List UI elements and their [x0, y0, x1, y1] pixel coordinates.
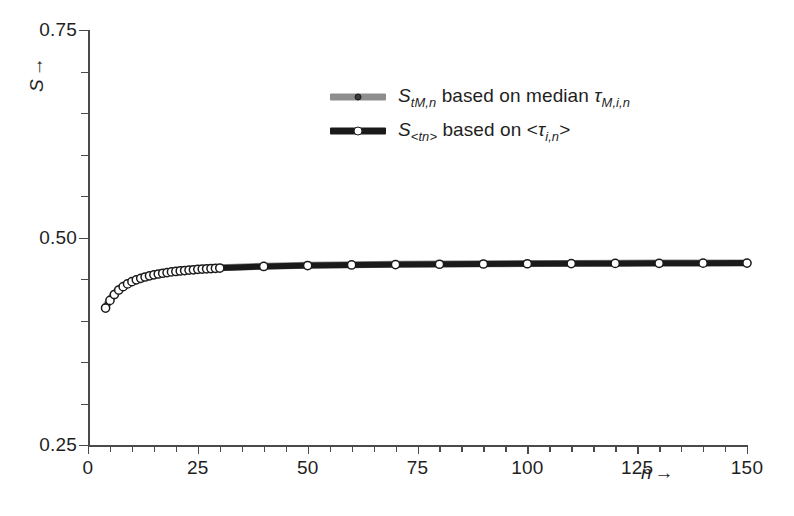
series-marker	[435, 260, 443, 268]
series-marker	[479, 260, 487, 268]
series-marker	[699, 259, 707, 267]
legend-label: StM,n based on median τM,i,n	[398, 85, 630, 110]
legend-swatch-icon	[330, 121, 386, 141]
series-marker	[611, 259, 619, 267]
chart-legend: StM,n based on median τM,i,nS<tn> based …	[330, 80, 630, 148]
legend-item-1[interactable]: S<tn> based on <τi,n>	[330, 114, 630, 148]
series-marker	[523, 260, 531, 268]
series-marker	[260, 262, 268, 270]
series-marker	[743, 259, 751, 267]
legend-item-0[interactable]: StM,n based on median τM,i,n	[330, 80, 630, 114]
series-marker	[567, 259, 575, 267]
legend-marker-icon	[355, 94, 362, 101]
chart-figure: 0.250.500.75 0255075100125150 S→ n→ StM,…	[0, 0, 794, 516]
series-layer	[0, 0, 794, 516]
legend-label: S<tn> based on <τi,n>	[398, 119, 570, 144]
series-marker	[391, 260, 399, 268]
series-marker	[101, 304, 109, 312]
legend-marker-icon	[354, 127, 363, 136]
series-marker	[216, 264, 224, 272]
series-1	[101, 259, 751, 312]
series-marker	[655, 259, 663, 267]
series-marker	[304, 261, 312, 269]
legend-swatch-icon	[330, 87, 386, 107]
series-marker	[348, 261, 356, 269]
